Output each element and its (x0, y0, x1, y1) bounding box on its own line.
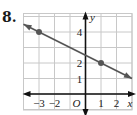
coordinate-graph: −3−212421Oxy (0, 0, 137, 115)
y-tick-label: 1 (77, 73, 83, 85)
y-axis-label: y (89, 11, 95, 23)
data-point (98, 60, 104, 66)
x-tick-label: −2 (49, 97, 61, 109)
y-tick-label: 2 (77, 57, 83, 69)
y-tick-label: 4 (77, 26, 83, 38)
x-tick-label: −3 (33, 97, 45, 109)
origin-label: O (73, 97, 81, 109)
x-tick-label: 1 (98, 97, 104, 109)
x-tick-label: 2 (114, 97, 120, 109)
x-axis-label: x (127, 97, 133, 109)
y-axis-down-arrow-icon (83, 109, 89, 115)
data-point (36, 29, 42, 35)
